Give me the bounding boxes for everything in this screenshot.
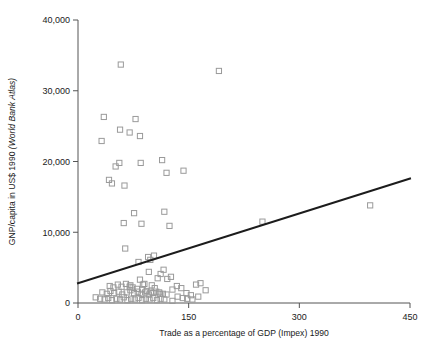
data-point-marker [216, 68, 221, 73]
y-tick-label: 0 [65, 298, 70, 308]
data-point-marker [181, 168, 186, 173]
data-point-marker [164, 170, 169, 175]
data-point-marker [196, 294, 201, 299]
y-tick-label: 10,000 [42, 228, 70, 238]
data-point-marker [137, 133, 142, 138]
data-point-marker [162, 209, 167, 214]
data-point-marker [139, 221, 144, 226]
data-point-marker [117, 160, 122, 165]
data-point-marker [146, 269, 151, 274]
x-tick-label: 150 [181, 312, 196, 322]
data-point-marker [133, 116, 138, 121]
scatter-plot-figure: 010,00020,00030,00040,0000150300450Trade… [0, 0, 433, 343]
x-tick-label: 0 [75, 312, 80, 322]
data-point-marker [160, 157, 165, 162]
y-tick-label: 40,000 [42, 15, 70, 25]
data-point-marker [167, 223, 172, 228]
data-point-marker [138, 160, 143, 165]
data-point-marker [107, 283, 112, 288]
data-point-marker [99, 138, 104, 143]
data-point-marker [203, 288, 208, 293]
data-point-marker [127, 130, 132, 135]
data-point-marker [131, 211, 136, 216]
data-point-marker [113, 164, 118, 169]
trend-line [78, 178, 410, 283]
y-tick-label: 20,000 [42, 157, 70, 167]
y-tick-label: 30,000 [42, 86, 70, 96]
data-point-marker [101, 114, 106, 119]
y-axis-title: GNP/capita in US$ 1990 (World Bank Atlas… [7, 78, 17, 245]
data-point-marker [117, 127, 122, 132]
y-axis-title-plain: GNP/capita in US$ 1990 [7, 149, 17, 245]
data-point-marker [175, 294, 180, 299]
data-point-marker [123, 246, 128, 251]
y-axis-title-italic: (World Bank Atlas) [7, 78, 17, 149]
data-point-marker [118, 62, 123, 67]
data-point-marker [150, 291, 155, 296]
x-tick-label: 300 [292, 312, 307, 322]
data-point-marker [121, 220, 126, 225]
x-axis-title: Trade as a percentage of GDP (Impex) 199… [159, 328, 329, 338]
plot-canvas: 010,00020,00030,00040,0000150300450Trade… [0, 0, 433, 343]
data-point-marker [122, 183, 127, 188]
data-point-marker [368, 203, 373, 208]
x-tick-label: 450 [402, 312, 417, 322]
